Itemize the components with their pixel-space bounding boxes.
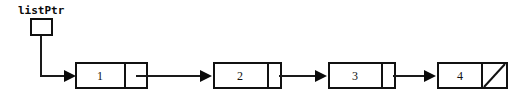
node-3-box	[329, 63, 395, 88]
listptr-box	[31, 19, 52, 35]
listptr-label: listPtr	[18, 4, 65, 17]
list-node-2: 2	[214, 63, 281, 88]
arrowhead-node-2-to-node-3	[315, 70, 327, 82]
link-listptr-to-node-1	[41, 36, 72, 76]
node-1-value: 1	[97, 69, 103, 83]
arrowhead-listptr-to-node-1	[64, 70, 76, 82]
list-node-4: 4	[438, 63, 507, 88]
node-2-box	[214, 63, 281, 88]
node-3-value: 3	[352, 69, 358, 83]
arrowhead-node-3-to-node-4	[424, 70, 436, 82]
node-4-box	[438, 63, 507, 88]
node-2-value: 2	[237, 69, 243, 83]
node-4-value: 4	[457, 69, 463, 83]
list-node-3: 3	[329, 63, 395, 88]
diagram-svg-canvas: listPtr 1 2 3	[0, 0, 527, 102]
linked-list-diagram: listPtr 1 2 3	[0, 0, 527, 102]
arrowhead-node-1-to-node-2	[200, 70, 212, 82]
